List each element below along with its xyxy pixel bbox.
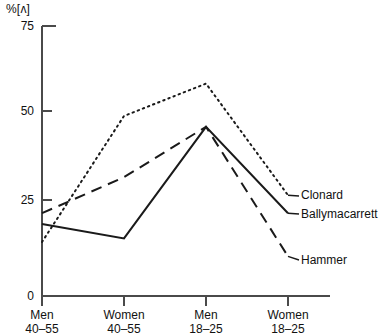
x-tick-label-women-40-55: Women 40–55 xyxy=(103,308,144,336)
axis-spine xyxy=(42,26,330,296)
legend-label-hammer: Hammer xyxy=(301,253,347,267)
legend-label-clonard: Clonard xyxy=(301,188,343,202)
legend-label-ballymacarrett: Ballymacarrett xyxy=(301,207,378,221)
x-tick-label-men-18-25: Men 18–25 xyxy=(189,308,222,336)
x-tick-label-men-40-55: Men 40–55 xyxy=(25,308,58,336)
legend-leader-lines xyxy=(288,195,299,260)
axis-lines xyxy=(42,26,330,306)
x-tick-label-women-18-25: Women 18–25 xyxy=(267,308,308,336)
data-series-layer xyxy=(42,84,288,257)
x-tick-marks xyxy=(42,296,288,306)
y-tick-marks xyxy=(42,111,52,200)
legend-leader-hammer xyxy=(288,256,299,260)
legend-leader-clonard xyxy=(288,195,299,196)
series-line-clonard xyxy=(42,84,288,242)
series-line-hammer xyxy=(42,127,288,257)
legend-leader-ballymacarrett xyxy=(288,213,299,214)
